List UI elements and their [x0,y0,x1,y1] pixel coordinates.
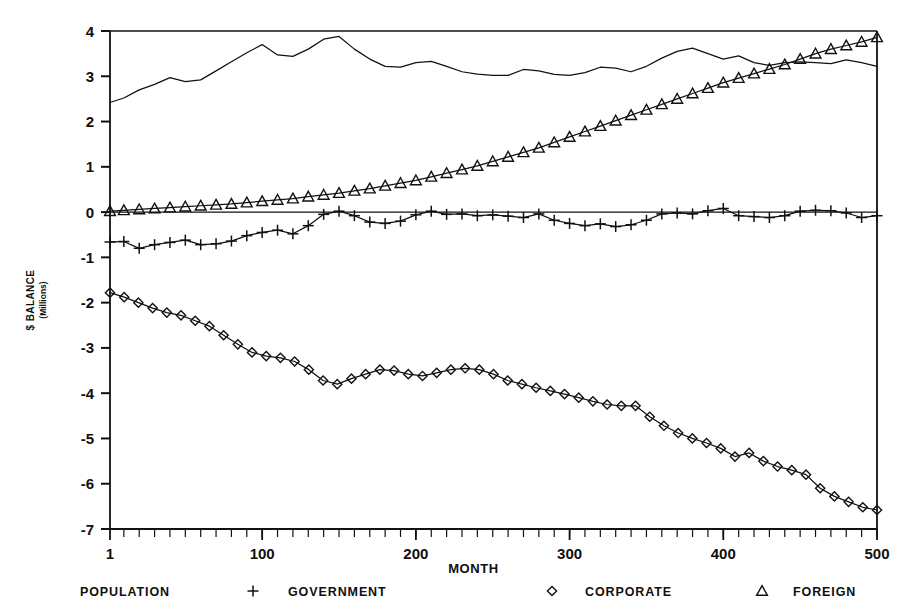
y-tick-label: -7 [81,521,94,538]
chart-legend: POPULATIONGOVERNMENTCORPORATEFOREIGN [80,585,856,599]
series-government [105,203,883,254]
series-line [110,36,877,102]
chart-figure: 43210-1-2-3-4-5-6-71100200300400500MONTH… [0,0,905,613]
y-tick-label: -6 [81,475,94,492]
marker-triangle [757,586,768,596]
series-line [110,293,877,510]
x-tick-label: 100 [250,545,275,562]
x-tick-label: 300 [557,545,582,562]
series-foreign [105,32,883,216]
legend-label-population: POPULATION [80,585,170,599]
series-corporate [105,288,881,515]
y-tick-label: 2 [86,113,94,130]
y-axis-title-line1: $ BALANCE [25,270,36,331]
y-tick-label: 3 [86,68,94,85]
chart-svg: 43210-1-2-3-4-5-6-71100200300400500MONTH… [0,0,905,613]
x-tick-label: 400 [711,545,736,562]
x-tick-label: 200 [403,545,428,562]
legend-marker-corporate [547,586,556,595]
legend-label-corporate: CORPORATE [585,585,672,599]
y-axis-title: $ BALANCE(Millions) [25,270,48,331]
series-line [110,37,877,211]
y-tick-label: -2 [81,294,94,311]
y-tick-label: 4 [86,23,95,40]
y-axis-ticks: 43210-1-2-3-4-5-6-7 [81,23,110,538]
y-tick-label: -1 [81,249,94,266]
legend-marker-foreign [757,586,768,596]
y-tick-label: 0 [86,204,94,221]
series-population [110,36,877,102]
legend-marker-government [248,586,259,597]
x-tick-label: 1 [106,545,114,562]
x-axis-title: MONTH [448,561,499,576]
y-tick-label: 1 [86,158,94,175]
legend-label-foreign: FOREIGN [793,585,856,599]
y-tick-label: -3 [81,339,94,356]
y-tick-label: -4 [81,385,95,402]
series-group [105,32,883,515]
x-axis-ticks: 1100200300400500 [106,529,890,562]
marker-diamond [547,586,556,595]
legend-label-government: GOVERNMENT [288,585,387,599]
x-tick-label: 500 [864,545,889,562]
y-axis-title-line2: (Millions) [38,281,48,318]
y-tick-label: -5 [81,430,94,447]
